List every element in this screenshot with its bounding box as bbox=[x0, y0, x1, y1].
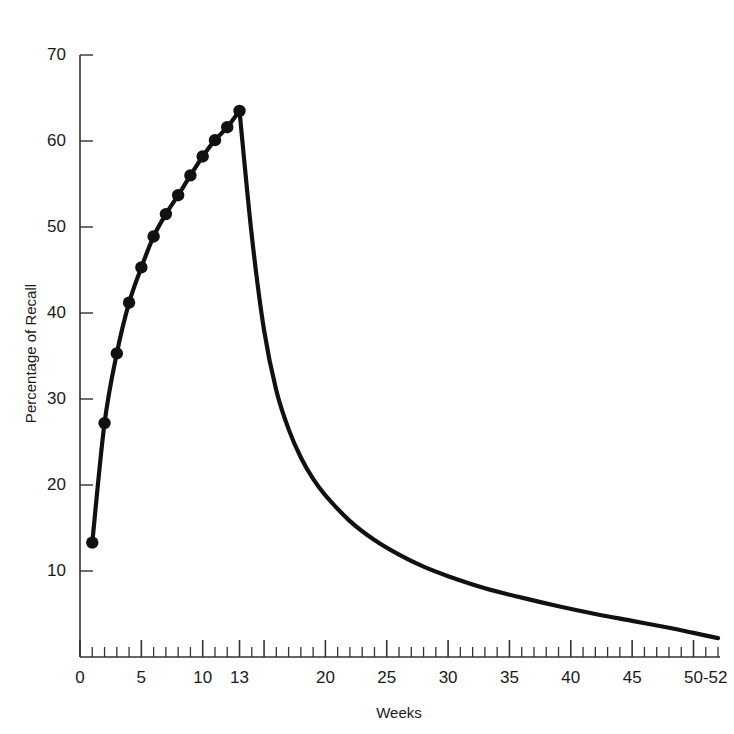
x-axis-ticks bbox=[80, 640, 718, 657]
series-line-1 bbox=[240, 111, 719, 638]
data-point-week-9 bbox=[184, 169, 196, 181]
y-tick-label-60: 60 bbox=[18, 132, 66, 149]
data-point-week-1 bbox=[86, 536, 98, 548]
data-point-week-7 bbox=[160, 208, 172, 220]
data-point-week-4 bbox=[123, 296, 135, 308]
data-point-week-6 bbox=[147, 230, 159, 242]
data-point-week-5 bbox=[135, 261, 147, 273]
data-point-week-13 bbox=[233, 105, 245, 117]
data-point-week-12 bbox=[221, 121, 233, 133]
x-tick-label-13: 13 bbox=[195, 669, 285, 686]
axis-lines bbox=[80, 55, 720, 657]
data-series-lines bbox=[92, 111, 718, 638]
y-tick-label-50: 50 bbox=[18, 218, 66, 235]
data-point-week-2 bbox=[98, 417, 110, 429]
data-point-week-10 bbox=[197, 150, 209, 162]
data-point-week-8 bbox=[172, 189, 184, 201]
data-point-markers bbox=[86, 105, 246, 549]
x-axis-title: Weeks bbox=[0, 705, 734, 720]
data-point-week-3 bbox=[111, 347, 123, 359]
data-point-week-11 bbox=[209, 134, 221, 146]
x-tick-label-50-52: 50-52 bbox=[661, 669, 734, 686]
chart-plot-area bbox=[0, 0, 734, 734]
series-line-0 bbox=[92, 111, 239, 543]
y-tick-label-10: 10 bbox=[18, 562, 66, 579]
y-axis-ticks bbox=[80, 55, 93, 571]
y-axis-title: Percentage of Recall bbox=[23, 254, 38, 454]
y-tick-label-70: 70 bbox=[18, 46, 66, 63]
chart-figure: 10203040506070 05101320253035404550-52 P… bbox=[0, 0, 734, 734]
y-tick-label-20: 20 bbox=[18, 476, 66, 493]
